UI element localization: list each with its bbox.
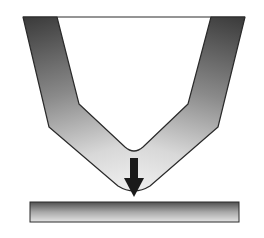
indenter-diagram [0,0,264,238]
flat-plate [30,202,239,222]
